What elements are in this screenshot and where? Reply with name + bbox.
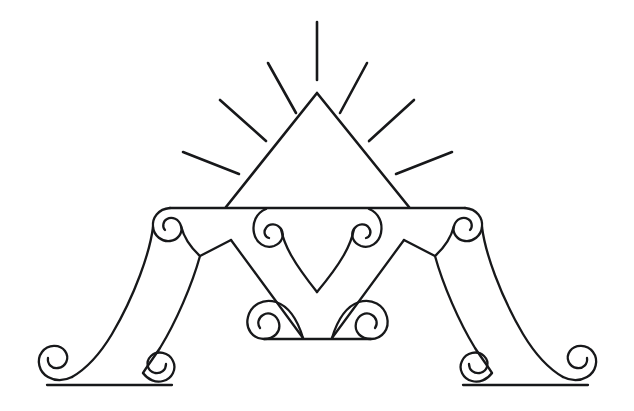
scroll-bar-inner-left-icon [254, 209, 283, 247]
inner-v-group [231, 240, 404, 338]
scroll-bar-far-left-icon [153, 208, 182, 241]
ray-upper-left-icon [268, 63, 296, 113]
right-leg-outer-stroke [482, 227, 563, 377]
left-leg-outer-stroke [72, 227, 153, 377]
monogram-illustration: Ornamental Letter A Monogram [0, 0, 634, 411]
right-leg-group [435, 227, 563, 377]
pyramid-triangle-icon [226, 93, 409, 207]
left-leg-inner-top-curve [181, 226, 231, 256]
scroll-foot-left-outer-icon [39, 346, 72, 380]
crossbar-scrolls-group [153, 208, 482, 292]
base-flourish-group [247, 301, 387, 339]
scroll-foot-right-inner-icon [461, 353, 492, 382]
ray-mid-left-icon [220, 100, 266, 141]
inner-v-left-stroke [231, 240, 303, 338]
scroll-foot-left-inner-icon [143, 353, 174, 382]
ray-lower-left-icon [183, 152, 239, 174]
base-right-scroll-arm [332, 301, 388, 339]
base-left-scroll-arm [247, 301, 303, 339]
rays-group [183, 22, 452, 174]
scroll-bar-far-right-icon [454, 208, 483, 241]
left-leg-group [72, 227, 200, 377]
scroll-foot-right-outer-icon [563, 346, 596, 380]
ray-lower-right-icon [396, 152, 452, 174]
pyramid-group [226, 93, 409, 207]
right-leg-inner-top-curve [404, 226, 454, 256]
artwork-canvas: Ornamental Letter A Monogram [0, 0, 634, 411]
ray-mid-right-icon [369, 100, 414, 141]
heart-right-lobe [317, 229, 354, 292]
right-foot-group [461, 346, 597, 385]
left-foot-group [39, 346, 175, 385]
ray-upper-right-icon [340, 63, 367, 113]
scroll-bar-inner-right-icon [352, 209, 381, 247]
heart-left-lobe [281, 229, 317, 292]
